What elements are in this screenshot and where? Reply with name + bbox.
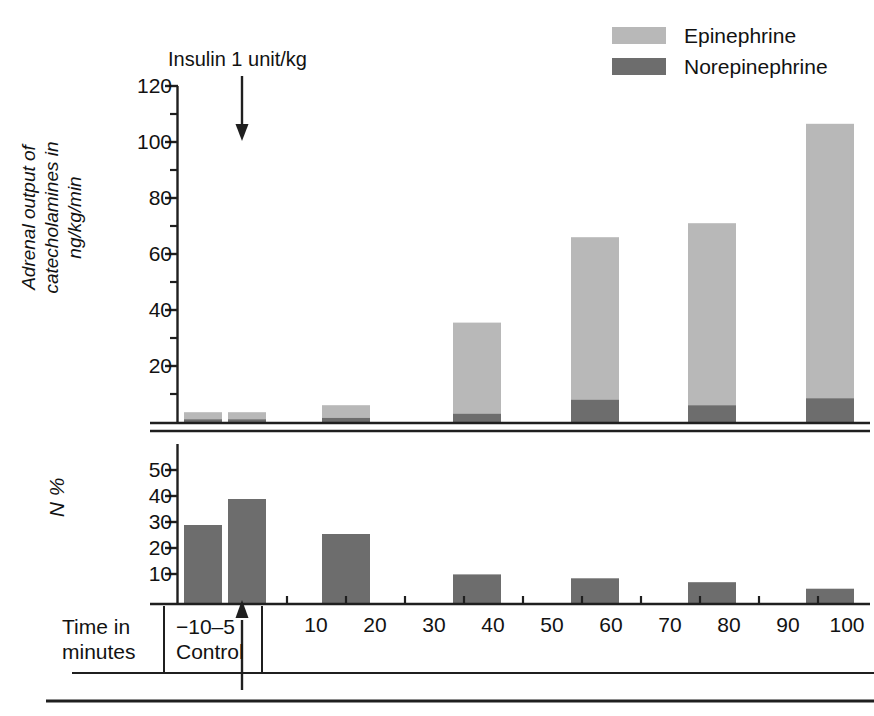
bar-norepinephrine bbox=[322, 418, 370, 422]
x-ticklabel: 90 bbox=[776, 614, 799, 635]
y-ticklabel: 80 bbox=[149, 187, 172, 208]
chart-legend: Epinephrine Norepinephrine bbox=[612, 22, 828, 84]
bar-norepinephrine bbox=[688, 405, 736, 422]
insulin-annotation-label: Insulin 1 unit/kg bbox=[168, 48, 307, 70]
y-ticklabel: 60 bbox=[149, 243, 172, 264]
legend-item-norepinephrine: Norepinephrine bbox=[612, 53, 828, 79]
bar-group-100 bbox=[806, 124, 854, 422]
y-ticklabel: 100 bbox=[137, 131, 172, 152]
bar-epinephrine bbox=[806, 124, 854, 398]
legend-swatch-epinephrine bbox=[612, 27, 666, 44]
bar-group-20 bbox=[322, 405, 370, 422]
bar-n-percent-40 bbox=[453, 574, 501, 603]
y-ticklabel: 20 bbox=[149, 355, 172, 376]
y-axis-ticklabels-bottom: 50 40 30 20 10 bbox=[108, 440, 172, 615]
bar-norepinephrine bbox=[571, 400, 619, 422]
figure-canvas: Epinephrine Norepinephrine Insulin 1 uni… bbox=[0, 0, 874, 716]
control-label: Control bbox=[176, 639, 244, 664]
insulin-down-arrow bbox=[236, 76, 249, 141]
bar-epinephrine bbox=[571, 237, 619, 399]
legend-label-epinephrine: Epinephrine bbox=[684, 25, 796, 46]
control-range-label: −10–5 bbox=[176, 614, 244, 639]
bar-n-percent-minus5 bbox=[228, 499, 266, 603]
x-ticklabel: 80 bbox=[717, 614, 740, 635]
legend-label-norepinephrine: Norepinephrine bbox=[684, 56, 828, 77]
y-axis-ticklabels-top: 120 100 80 60 40 20 bbox=[108, 0, 172, 430]
bar-n-percent-80 bbox=[688, 582, 736, 603]
x-ticklabel: 60 bbox=[599, 614, 622, 635]
bottom-panel bbox=[150, 444, 870, 604]
bar-group-80 bbox=[688, 223, 736, 422]
y-ticklabel: 10 bbox=[149, 563, 172, 584]
y-axis-title-bottom: N % bbox=[46, 472, 67, 524]
bar-group-minus5 bbox=[228, 412, 266, 422]
bar-epinephrine bbox=[688, 223, 736, 405]
y-ticklabel: 40 bbox=[149, 485, 172, 506]
x-ticklabel: 10 bbox=[304, 614, 327, 635]
x-ticklabel: 100 bbox=[829, 614, 864, 635]
y-ticklabel: 50 bbox=[149, 459, 172, 480]
y-ticklabel: 40 bbox=[149, 299, 172, 320]
bar-epinephrine bbox=[453, 323, 501, 414]
x-ticklabel: 40 bbox=[481, 614, 504, 635]
x-axis-caption-control: −10–5 Control bbox=[176, 614, 244, 664]
x-ticklabel: 50 bbox=[540, 614, 563, 635]
x-ticklabel: 20 bbox=[363, 614, 386, 635]
bar-norepinephrine bbox=[184, 419, 222, 422]
bar-n-percent-20 bbox=[322, 534, 370, 603]
bar-epinephrine bbox=[184, 412, 222, 419]
legend-item-epinephrine: Epinephrine bbox=[612, 22, 828, 48]
x-axis-caption-line2: minutes bbox=[62, 639, 136, 664]
legend-swatch-norepinephrine bbox=[612, 58, 666, 75]
x-ticklabel: 70 bbox=[658, 614, 681, 635]
bar-norepinephrine bbox=[453, 414, 501, 422]
x-axis-caption-time: Time in minutes bbox=[62, 614, 136, 664]
y-ticklabel: 20 bbox=[149, 537, 172, 558]
bar-norepinephrine bbox=[228, 419, 266, 422]
bar-epinephrine bbox=[228, 412, 266, 419]
bar-epinephrine bbox=[322, 405, 370, 418]
x-ticklabel: 30 bbox=[422, 614, 445, 635]
bar-n-percent-100 bbox=[806, 589, 854, 603]
bar-group-60 bbox=[571, 237, 619, 422]
bar-norepinephrine bbox=[806, 398, 854, 422]
top-panel bbox=[150, 86, 870, 431]
x-axis-caption-line1: Time in bbox=[62, 614, 136, 639]
bar-n-percent-minus10 bbox=[184, 525, 222, 603]
bar-group-minus10 bbox=[184, 412, 222, 422]
y-ticklabel: 120 bbox=[137, 75, 172, 96]
y-ticklabel: 30 bbox=[149, 511, 172, 532]
y-axis-title-top: Adrenal output of catecholamines in ng/k… bbox=[17, 103, 86, 333]
bar-n-percent-60 bbox=[571, 578, 619, 603]
bar-group-40 bbox=[453, 323, 501, 422]
